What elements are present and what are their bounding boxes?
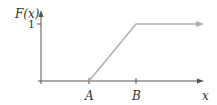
cdf-chart: F(x) 1 A B x [0,0,217,105]
x-axis-label: x [202,90,209,102]
cdf-curve [89,24,198,81]
x-axis-arrow-icon [197,79,204,84]
y-tick-label-1: 1 [28,19,35,30]
curve-arrow-icon [196,21,204,27]
x-tick-label-b: B [132,90,141,102]
x-tick-label-a: A [85,90,94,102]
